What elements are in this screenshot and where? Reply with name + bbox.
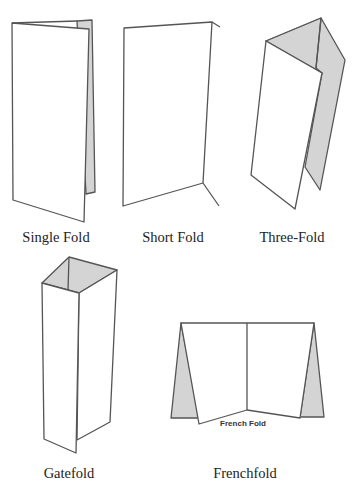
frenchfold-illustration	[171, 323, 324, 424]
fold-diagram-canvas	[0, 0, 358, 495]
label-three-fold: Three-Fold	[259, 229, 324, 246]
label-gatefold: Gatefold	[44, 465, 95, 482]
three-fold-illustration	[251, 18, 345, 209]
single-fold-illustration	[12, 20, 95, 222]
label-single-fold: Single Fold	[22, 229, 89, 246]
gatefold-illustration	[42, 257, 117, 453]
label-short-fold: Short Fold	[142, 229, 204, 246]
inner-label-french-fold: French Fold	[220, 419, 266, 428]
label-frenchfold: Frenchfold	[213, 465, 277, 482]
short-fold-illustration	[123, 22, 220, 206]
